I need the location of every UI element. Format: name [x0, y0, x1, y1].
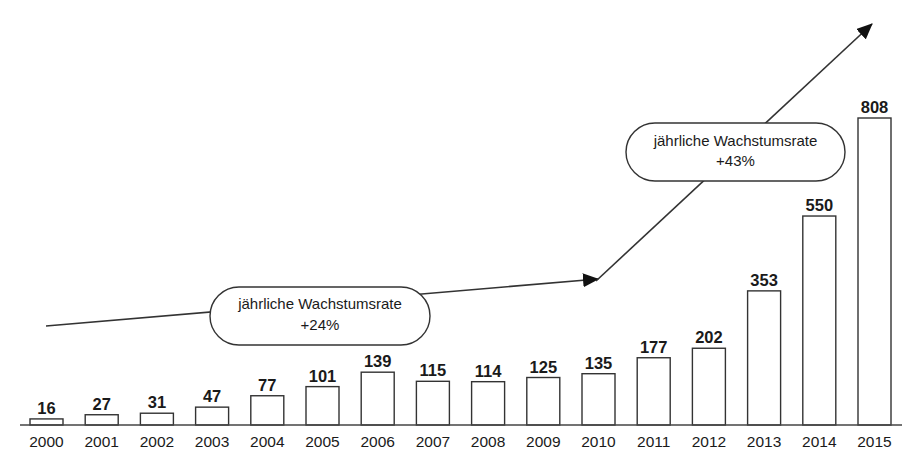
- bar-2005: [306, 387, 339, 425]
- x-tick-2008: 2008: [471, 433, 505, 450]
- x-tick-2015: 2015: [857, 433, 891, 450]
- x-tick-2007: 2007: [416, 433, 450, 450]
- value-label-2008: 114: [475, 362, 502, 380]
- bar-2001: [85, 415, 118, 425]
- x-tick-2002: 2002: [140, 433, 174, 450]
- annotation-2-line1: jährliche Wachstumsrate: [653, 132, 818, 149]
- annotation-1-line1: jährliche Wachstumsrate: [237, 295, 402, 312]
- value-label-2004: 77: [258, 376, 276, 394]
- value-label-2015: 808: [861, 98, 889, 116]
- bar-2012: [692, 348, 725, 425]
- bar-2009: [527, 378, 560, 425]
- x-tick-labels: 2000200120022003200420052006200720082009…: [29, 433, 891, 450]
- x-tick-2012: 2012: [692, 433, 726, 450]
- value-label-2013: 353: [750, 271, 778, 289]
- value-label-2000: 16: [37, 399, 55, 417]
- bar-2014: [803, 216, 836, 425]
- bar-2011: [637, 358, 670, 425]
- x-tick-2004: 2004: [250, 433, 285, 450]
- bar-2015: [858, 118, 891, 425]
- annotation-2-line2: +43%: [716, 152, 755, 169]
- x-tick-2001: 2001: [84, 433, 118, 450]
- value-label-2011: 177: [640, 338, 668, 356]
- x-tick-2005: 2005: [305, 433, 339, 450]
- value-label-2006: 139: [364, 352, 392, 370]
- x-tick-2011: 2011: [637, 433, 670, 450]
- bar-2003: [196, 407, 229, 425]
- bar-chart: 1627314777101139115114125135177202353550…: [0, 0, 918, 474]
- annotation-1-line2: +24%: [301, 316, 340, 333]
- value-label-2014: 550: [806, 196, 834, 214]
- bar-2006: [361, 372, 394, 425]
- bar-2010: [582, 374, 615, 425]
- value-label-2012: 202: [695, 328, 723, 346]
- value-label-2002: 31: [148, 393, 166, 411]
- bar-2000: [30, 419, 63, 425]
- value-label-2001: 27: [93, 395, 111, 413]
- bar-2004: [251, 396, 284, 425]
- x-tick-2003: 2003: [195, 433, 229, 450]
- growth-annotation-2: jährliche Wachstumsrate +43%: [626, 123, 845, 181]
- x-tick-2006: 2006: [360, 433, 394, 450]
- x-tick-2000: 2000: [29, 433, 64, 450]
- value-label-2007: 115: [420, 361, 447, 379]
- x-tick-2014: 2014: [802, 433, 837, 450]
- value-label-2005: 101: [309, 367, 337, 385]
- bar-2002: [140, 413, 173, 425]
- value-label-2009: 125: [530, 358, 558, 376]
- value-label-2003: 47: [203, 387, 221, 405]
- bar-2008: [472, 382, 505, 425]
- bar-2013: [748, 291, 781, 425]
- x-tick-2009: 2009: [526, 433, 560, 450]
- growth-annotation-1: jährliche Wachstumsrate +24%: [210, 287, 430, 345]
- bar-2007: [416, 381, 449, 425]
- value-label-2010: 135: [585, 354, 613, 372]
- x-tick-2013: 2013: [747, 433, 781, 450]
- x-tick-2010: 2010: [581, 433, 616, 450]
